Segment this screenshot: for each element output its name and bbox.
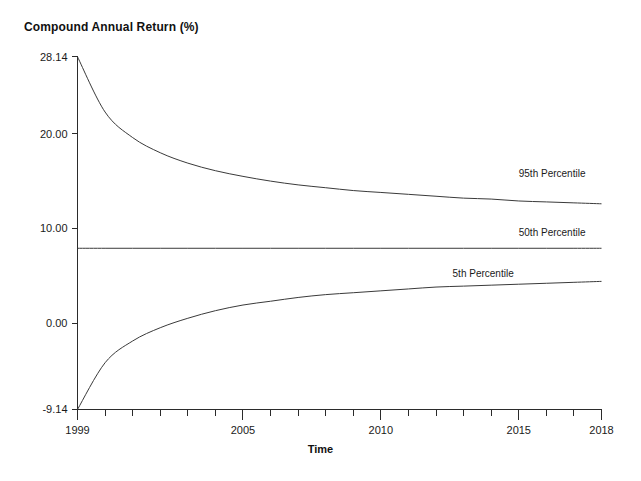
- y-tick-label: -9.14: [42, 403, 67, 415]
- x-tick-label: 2018: [589, 424, 613, 436]
- x-tick-label: 1999: [65, 424, 89, 436]
- x-tick-label: 2010: [369, 424, 393, 436]
- axes-group: [72, 57, 602, 420]
- series-curve-0: [78, 57, 602, 204]
- series-label-0: 95th Percentile: [519, 168, 586, 179]
- series-label-1: 50th Percentile: [519, 227, 586, 238]
- chart-container: Compound Annual Return (%) 28.1420.0010.…: [0, 0, 641, 481]
- plot-area: [0, 0, 641, 481]
- x-tick-label: 2005: [231, 424, 255, 436]
- series-curve-2: [78, 281, 602, 409]
- y-tick-label: 10.00: [40, 222, 68, 234]
- y-tick-label: 28.14: [40, 51, 68, 63]
- x-tick-label: 2015: [507, 424, 531, 436]
- y-tick-label: 20.00: [40, 128, 68, 140]
- y-tick-label: 0.00: [46, 317, 67, 329]
- x-axis-title: Time: [0, 443, 641, 455]
- series-label-2: 5th Percentile: [453, 268, 514, 279]
